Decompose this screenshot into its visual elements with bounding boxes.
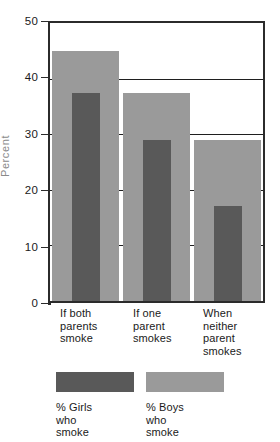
- y-tick-mark-40: [41, 77, 48, 78]
- legend-label-line-3: smoke: [56, 426, 134, 439]
- legend-label-line-2: who: [146, 414, 224, 427]
- y-tick-label-20: 20: [10, 184, 38, 196]
- category-label-line-3: parent: [203, 332, 273, 345]
- y-tick-mark-50: [41, 21, 48, 22]
- y-tick-label-50: 50: [10, 15, 38, 27]
- legend-label-line-1: % Girls: [56, 401, 134, 414]
- legend-label-line-2: who: [56, 414, 134, 427]
- bar-chart: Percent 50 40 30 20 10 0 If both parents…: [0, 0, 280, 442]
- category-label-line-2: parents: [60, 320, 130, 333]
- plot-area: [48, 21, 265, 303]
- y-axis-title: Percent: [0, 135, 11, 177]
- legend-label-line-3: smoke: [146, 426, 224, 439]
- y-tick-mark-0: [41, 303, 48, 304]
- legend-label-girls: % Girls who smoke: [56, 401, 134, 439]
- y-tick-label-10: 10: [10, 241, 38, 253]
- legend-swatch-girls: [56, 372, 134, 392]
- category-label-line-3: smokes: [133, 332, 203, 345]
- category-label-line-2: neither: [203, 320, 273, 333]
- x-axis-category-labels: If both parents smoke If one parent smok…: [48, 307, 265, 365]
- category-label-line-1: If both: [60, 307, 130, 320]
- legend-entry-boys: % Boys who smoke: [146, 372, 224, 439]
- legend-label-line-1: % Boys: [146, 401, 224, 414]
- legend-swatch-boys: [146, 372, 224, 392]
- category-label-line-3: smoke: [60, 332, 130, 345]
- y-tick-mark-10: [41, 247, 48, 248]
- category-label-when-neither-parent-smokes: When neither parent smokes: [203, 307, 273, 357]
- bar-girls-2: [214, 206, 242, 301]
- y-tick-mark-30: [41, 134, 48, 135]
- category-label-if-one-parent-smokes: If one parent smokes: [133, 307, 203, 345]
- chart-legend: % Girls who smoke % Boys who smoke: [0, 372, 280, 442]
- y-tick-mark-20: [41, 190, 48, 191]
- category-label-line-4: smokes: [203, 345, 273, 358]
- y-tick-label-0: 0: [10, 297, 38, 309]
- y-tick-label-40: 40: [10, 71, 38, 83]
- category-label-if-both-parents-smoke: If both parents smoke: [60, 307, 130, 345]
- bar-girls-0: [72, 93, 100, 302]
- bar-girls-1: [143, 140, 171, 301]
- y-tick-label-30: 30: [10, 128, 38, 140]
- category-label-line-2: parent: [133, 320, 203, 333]
- legend-label-boys: % Boys who smoke: [146, 401, 224, 439]
- legend-entry-girls: % Girls who smoke: [56, 372, 134, 439]
- category-label-line-1: If one: [133, 307, 203, 320]
- plot-inner: [50, 23, 263, 301]
- category-label-line-1: When: [203, 307, 273, 320]
